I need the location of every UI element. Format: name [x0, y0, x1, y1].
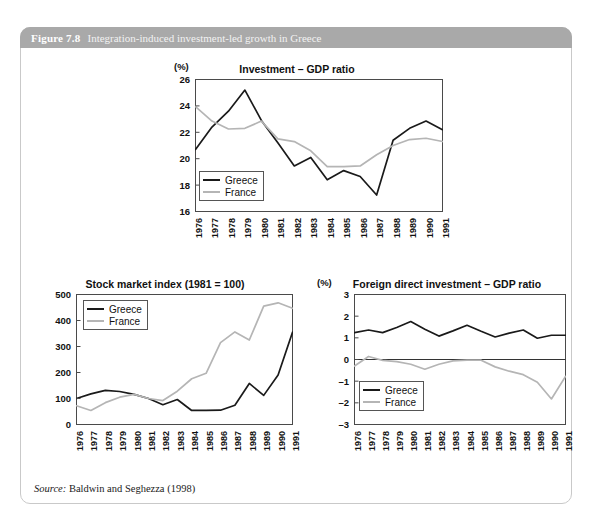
- series-line-greece: [77, 332, 293, 410]
- source-label: Source:: [34, 483, 66, 494]
- y-axis-tick-label: –3: [338, 419, 349, 430]
- x-axis-tick-label: 1990: [425, 218, 435, 238]
- legend-label: France: [225, 187, 256, 198]
- x-axis-tick-label: 1981: [276, 218, 286, 238]
- figure-caption: Integration-induced investment-led growt…: [87, 32, 321, 44]
- x-axis-tick-label: 1983: [451, 431, 461, 451]
- x-axis-tick-label: 1978: [104, 431, 114, 451]
- legend-swatch-greece-icon: [203, 179, 220, 181]
- chart-legend: GreeceFrance: [83, 300, 148, 330]
- legend-item-greece: Greece: [87, 303, 142, 315]
- chart-fdi-gdp-ratio: Foreign direct investment – GDP ratio (%…: [303, 276, 573, 486]
- x-axis-tick-label: 1984: [190, 431, 200, 451]
- x-axis-tick-label: 1978: [381, 431, 391, 451]
- y-axis-tick-label: 100: [55, 393, 71, 404]
- x-axis-tick-label: 1990: [550, 431, 560, 451]
- x-axis-tick-label: 1991: [441, 218, 451, 238]
- x-axis-tick-label: 1982: [161, 431, 171, 451]
- y-axis-tick-label: 0: [344, 354, 349, 365]
- y-axis-tick-label: –1: [338, 375, 349, 386]
- x-axis-tick-label: 1980: [133, 431, 143, 451]
- y-axis-tick-label: 500: [55, 289, 71, 300]
- x-axis-tick-label: 1982: [437, 431, 447, 451]
- x-axis-tick-label: 1977: [89, 431, 99, 451]
- legend-swatch-france-icon: [363, 401, 380, 403]
- y-axis-tick-label: 26: [179, 74, 190, 85]
- x-axis-tick-label: 1979: [118, 431, 128, 451]
- x-axis-tick-label: 1987: [375, 218, 385, 238]
- x-axis-tick-label: 1982: [293, 218, 303, 238]
- legend-label: Greece: [385, 385, 418, 396]
- x-axis-tick-label: 1986: [494, 431, 504, 451]
- chart-stock-market-index: Stock market index (1981 = 100) 01002003…: [21, 276, 311, 486]
- chart-legend: GreeceFrance: [199, 171, 264, 201]
- x-axis-tick-label: 1988: [522, 431, 532, 451]
- x-axis-tick-label: 1985: [342, 218, 352, 238]
- y-axis-tick-label: –2: [338, 397, 349, 408]
- x-axis-tick-label: 1979: [395, 431, 405, 451]
- x-axis-tick-label: 1981: [423, 431, 433, 451]
- y-axis-tick-label: 22: [179, 126, 190, 137]
- legend-swatch-france-icon: [203, 191, 220, 193]
- y-axis-tick-label: 1: [344, 332, 349, 343]
- y-axis-tick-label: 3: [344, 289, 349, 300]
- y-axis-tick-label: 2: [344, 310, 349, 321]
- y-axis-tick-label: 16: [179, 206, 190, 217]
- x-axis-tick-label: 1989: [408, 218, 418, 238]
- legend-item-france: France: [363, 396, 418, 408]
- x-axis-tick-label: 1984: [466, 431, 476, 451]
- legend-item-france: France: [87, 315, 142, 327]
- x-axis-tick-label: 1989: [536, 431, 546, 451]
- chart-investment-gdp-ratio: Investment – GDP ratio (%) 1618202224261…: [137, 61, 457, 266]
- legend-label: France: [109, 316, 140, 327]
- x-axis-tick-label: 1988: [248, 431, 258, 451]
- x-axis-tick-label: 1983: [309, 218, 319, 238]
- x-axis-tick-label: 1987: [508, 431, 518, 451]
- x-axis-tick-label: 1986: [219, 431, 229, 451]
- x-axis-tick-label: 1978: [227, 218, 237, 238]
- x-axis-tick-label: 1985: [480, 431, 490, 451]
- y-axis-tick-label: 20: [179, 153, 190, 164]
- y-axis-tick-label: 24: [179, 100, 190, 111]
- legend-swatch-greece-icon: [363, 389, 380, 391]
- figure-source: Source: Baldwin and Seghezza (1998): [34, 483, 195, 494]
- y-axis-tick-label: 18: [179, 179, 190, 190]
- x-axis-tick-label: 1980: [260, 218, 270, 238]
- x-axis-tick-label: 1985: [205, 431, 215, 451]
- legend-label: France: [385, 397, 416, 408]
- chart-legend: GreeceFrance: [359, 381, 424, 411]
- figure-card: Figure 7.8 Integration-induced investmen…: [20, 27, 572, 504]
- chart-title: Foreign direct investment – GDP ratio: [325, 278, 569, 290]
- x-axis-tick-label: 1976: [353, 431, 363, 451]
- x-axis-tick-label: 1977: [210, 218, 220, 238]
- legend-label: Greece: [225, 175, 258, 186]
- figure-page: Figure 7.8 Integration-induced investmen…: [0, 0, 592, 526]
- x-axis-tick-label: 1976: [194, 218, 204, 238]
- x-axis-tick-label: 1990: [277, 431, 287, 451]
- legend-label: Greece: [109, 304, 142, 315]
- x-axis-tick-label: 1976: [75, 431, 85, 451]
- x-axis-tick-label: 1988: [392, 218, 402, 238]
- source-text: Baldwin and Seghezza (1998): [66, 483, 195, 494]
- x-axis-tick-label: 1983: [176, 431, 186, 451]
- chart-unit-label: (%): [174, 61, 189, 72]
- series-line-france: [196, 107, 443, 167]
- legend-item-france: France: [203, 186, 258, 198]
- legend-item-greece: Greece: [203, 174, 258, 186]
- x-axis-tick-label: 1991: [564, 431, 574, 451]
- figure-number: Figure 7.8: [31, 32, 80, 44]
- x-axis-tick-label: 1977: [367, 431, 377, 451]
- legend-swatch-greece-icon: [87, 308, 104, 310]
- x-axis-tick-label: 1989: [262, 431, 272, 451]
- x-axis-tick-label: 1979: [243, 218, 253, 238]
- x-axis-tick-label: 1981: [147, 431, 157, 451]
- y-axis-tick-label: 300: [55, 341, 71, 352]
- x-axis-tick-label: 1991: [291, 431, 301, 451]
- x-axis-tick-label: 1987: [233, 431, 243, 451]
- figure-header: Figure 7.8 Integration-induced investmen…: [20, 27, 572, 48]
- y-axis-tick-label: 200: [55, 367, 71, 378]
- x-axis-tick-label: 1986: [359, 218, 369, 238]
- legend-swatch-france-icon: [87, 320, 104, 322]
- legend-item-greece: Greece: [363, 384, 418, 396]
- x-axis-tick-label: 1984: [326, 218, 336, 238]
